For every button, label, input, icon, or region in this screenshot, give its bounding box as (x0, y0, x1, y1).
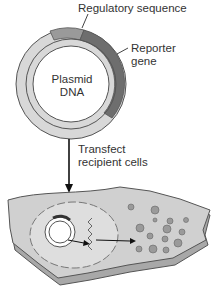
label-plasmid-dna: Plasmid DNA (50, 73, 94, 99)
regulatory-pointer (82, 14, 88, 28)
label-reporter-gene: Reporter gene (131, 42, 176, 68)
label-transfect-line2: recipient cells (78, 156, 148, 169)
label-transfect: Transfect recipient cells (78, 143, 148, 169)
label-plasmid-line1: Plasmid (50, 73, 94, 86)
cell-icon (8, 187, 210, 285)
label-reporter-line2: gene (131, 55, 176, 68)
label-transfect-line1: Transfect (78, 143, 148, 156)
label-regulatory-sequence: Regulatory sequence (78, 2, 187, 15)
label-plasmid-line2: DNA (50, 86, 94, 99)
reporter-pointer (117, 48, 128, 54)
label-reporter-line1: Reporter (131, 42, 176, 55)
